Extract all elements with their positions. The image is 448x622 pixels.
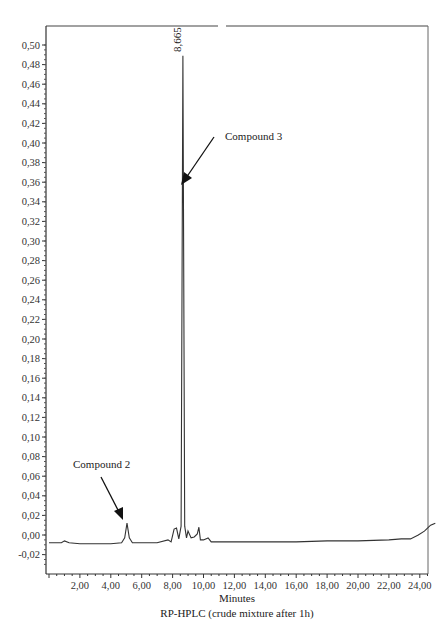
chart-title: RP-HPLC (crude mixture after 1h): [160, 607, 314, 620]
x-tick-label: 16,00: [284, 580, 308, 591]
x-tick-label: 2,00: [71, 580, 89, 591]
y-tick-label: 0,02: [22, 510, 40, 521]
y-tick-label: 0,08: [22, 451, 40, 462]
peak-retention-label: 8,665: [171, 27, 183, 52]
y-tick-label: 0,00: [22, 530, 40, 541]
y-tick-label: 0,38: [22, 157, 40, 168]
y-tick-label: 0,30: [22, 236, 40, 247]
x-axis-ticks: 2,004,006,008,0010,0012,0014,0016,0018,0…: [49, 574, 432, 591]
y-tick-label: 0,50: [22, 40, 40, 51]
y-tick-label: 0,26: [22, 275, 40, 286]
x-tick-label: 10,00: [192, 580, 216, 591]
x-tick-label: 18,00: [315, 580, 339, 591]
compound2-label: Compound 2: [73, 458, 130, 470]
y-tick-label: 0,42: [22, 118, 40, 129]
x-tick-label: 14,00: [253, 580, 277, 591]
x-tick-label: 22,00: [377, 580, 401, 591]
hplc-chromatogram: 0,500,480,460,440,420,400,380,360,340,32…: [0, 0, 448, 622]
x-tick-label: 6,00: [133, 580, 151, 591]
y-tick-label: 0,10: [22, 432, 40, 443]
chromatogram-trace: [49, 56, 435, 544]
y-tick-label: 0,14: [22, 392, 41, 403]
y-tick-label: 0,12: [22, 412, 40, 423]
y-tick-label: 0,34: [22, 196, 41, 207]
y-axis-ticks: 0,500,480,460,440,420,400,380,360,340,32…: [18, 40, 46, 565]
y-tick-label: 0,04: [22, 490, 41, 501]
y-tick-label: 0,22: [22, 314, 40, 325]
y-tick-label: 0,16: [22, 373, 40, 384]
y-tick-label: 0,06: [22, 471, 40, 482]
y-tick-label: 0,20: [22, 334, 40, 345]
y-tick-label: 0,40: [22, 138, 40, 149]
x-tick-label: 24,00: [408, 580, 432, 591]
compound2-arrow-icon: [101, 477, 123, 520]
y-tick-label: 0,36: [22, 177, 40, 188]
y-tick-label: 0,44: [22, 98, 41, 109]
y-tick-label: 0,24: [22, 294, 41, 305]
y-tick-label: 0,28: [22, 255, 40, 266]
x-axis-title: Minutes: [219, 592, 255, 604]
x-tick-label: 4,00: [102, 580, 120, 591]
x-tick-label: 12,00: [223, 580, 247, 591]
compound3-arrow-icon: [181, 137, 214, 185]
x-tick-label: 8,00: [163, 580, 181, 591]
x-tick-label: 20,00: [346, 580, 370, 591]
y-tick-label: -0,02: [18, 549, 40, 560]
compound3-label: Compound 3: [225, 130, 283, 142]
plot-frame: [46, 26, 428, 574]
y-tick-label: 0,32: [22, 216, 40, 227]
y-tick-label: 0,46: [22, 79, 40, 90]
y-tick-label: 0,18: [22, 353, 40, 364]
y-tick-label: 0,48: [22, 59, 40, 70]
